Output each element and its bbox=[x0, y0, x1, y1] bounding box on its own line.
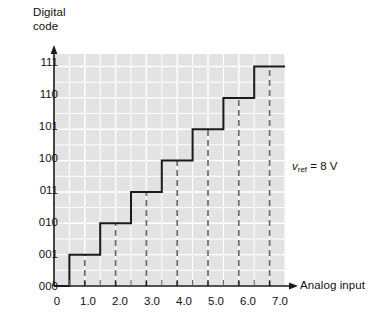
x-axis-tick-label: 6.0 bbox=[240, 295, 256, 307]
x-axis-tick-label: 5.0 bbox=[208, 295, 224, 307]
y-axis-tick-label: 101 bbox=[39, 120, 58, 132]
y-axis-tick-label: 010 bbox=[39, 216, 58, 228]
x-axis-tick-label: 4.0 bbox=[176, 295, 192, 307]
x-axis-tick-label: 1.0 bbox=[80, 295, 96, 307]
x-axis-tick-label: 0 bbox=[54, 295, 60, 307]
adc-transfer-function-figure: Digital code Analog input vref = 8 V bbox=[0, 0, 376, 320]
y-axis-tick-label: 000 bbox=[39, 280, 58, 292]
y-axis-tick-label: 011 bbox=[40, 184, 58, 196]
x-axis-tick-label: 7.0 bbox=[272, 295, 288, 307]
y-axis-tick-label: 111 bbox=[41, 56, 58, 68]
x-axis-tick-label: 2.0 bbox=[112, 295, 128, 307]
x-axis-arrowhead bbox=[289, 283, 298, 290]
y-axis-tick-label: 100 bbox=[39, 152, 58, 164]
y-axis-tick-label: 110 bbox=[40, 88, 58, 100]
y-axis-tick-label: 001 bbox=[39, 248, 58, 260]
y-axis-arrowhead bbox=[51, 45, 58, 54]
x-axis-tick-label: 3.0 bbox=[144, 295, 160, 307]
plot-background bbox=[54, 54, 285, 286]
